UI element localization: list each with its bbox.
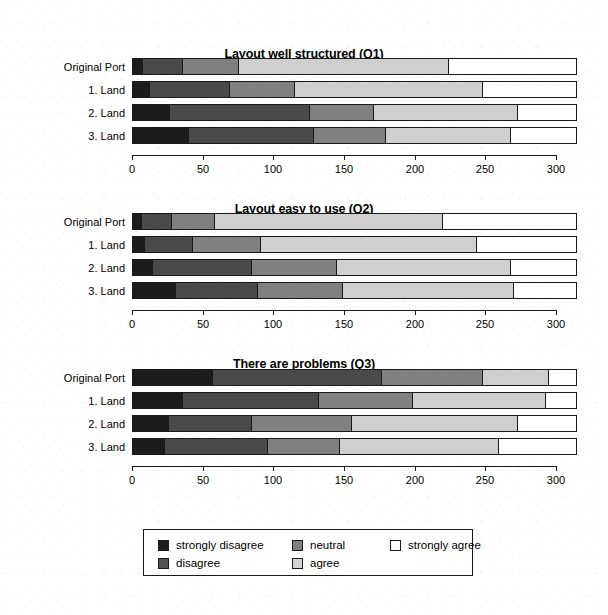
bar-segment-sd [132,237,145,252]
legend-swatch-icon [158,558,169,569]
bar-segment-sd [132,439,165,454]
bar-segment-d [169,416,252,431]
x-axis-tick-label: 300 [536,163,576,175]
x-axis-tick-label: 150 [324,318,364,330]
x-axis-tick-label: 100 [253,474,293,486]
bar-segment-sa [443,214,577,229]
bar-segment-a [215,214,443,229]
bar-segment-sa [518,105,577,120]
bar-segment-sd [132,59,143,74]
x-axis-tick-label: 0 [112,318,152,330]
bar-segment-d [183,393,319,408]
bar-segment-a [343,283,514,298]
bar-segment-d [142,214,172,229]
category-label: Original Port [33,61,125,73]
x-axis-tick [273,310,274,315]
x-axis-tick-label: 150 [324,474,364,486]
bar-segment-n [314,128,386,143]
bar-segment-d [145,237,193,252]
legend-label: disagree [176,557,220,569]
bar-segment-d [176,283,258,298]
x-axis-tick [556,310,557,315]
category-label: 3. Land [33,441,125,453]
x-axis-tick-label: 250 [465,318,505,330]
bar-segment-d [150,82,229,97]
bar-segment-sd [132,393,183,408]
stacked-bar [132,282,577,299]
x-axis-tick [556,155,557,160]
stacked-bar [132,58,577,75]
x-axis-tick [203,155,204,160]
x-axis-tick-label: 0 [112,474,152,486]
bar-segment-n [183,59,240,74]
x-axis-tick [415,466,416,471]
legend-label: agree [310,557,339,569]
x-axis-tick-label: 200 [395,163,435,175]
bar-segment-sa [546,393,577,408]
stacked-bar [132,213,577,230]
category-label: 2. Land [33,262,125,274]
x-axis-tick [273,466,274,471]
stacked-bar [132,259,577,276]
stacked-bar [132,369,577,386]
x-axis-tick-label: 100 [253,318,293,330]
bar-segment-d [189,128,315,143]
x-axis-tick-label: 300 [536,474,576,486]
legend-item-d: disagree [158,557,220,569]
bar-segment-a [413,393,546,408]
legend-item-n: neutral [292,539,345,551]
x-axis-tick-label: 100 [253,163,293,175]
bar-segment-sa [483,82,578,97]
category-label: Original Port [33,216,125,228]
stacked-bar [132,81,577,98]
category-label: Original Port [33,372,125,384]
category-label: 3. Land [33,285,125,297]
legend-swatch-icon [292,558,303,569]
bar-segment-a [386,128,510,143]
bar-segment-sa [518,416,577,431]
bar-segment-sd [132,260,153,275]
bar-segment-n [172,214,216,229]
legend-label: strongly disagree [176,539,264,551]
bar-segment-sd [132,283,176,298]
bar-segment-n [252,260,337,275]
stacked-bar [132,236,577,253]
x-axis-tick-label: 50 [183,163,223,175]
category-label: 1. Land [33,84,125,96]
x-axis-tick [203,466,204,471]
bar-segment-n [268,439,340,454]
x-axis-tick-label: 200 [395,474,435,486]
bar-segment-d [170,105,310,120]
bar-segment-a [239,59,448,74]
bar-segment-a [337,260,511,275]
category-label: 3. Land [33,130,125,142]
bar-segment-a [340,439,500,454]
bar-segment-n [193,237,261,252]
bar-segment-sd [132,214,142,229]
bar-segment-a [483,370,549,385]
legend-item-sd: strongly disagree [158,539,264,551]
x-axis-tick [132,310,133,315]
stacked-bar [132,127,577,144]
bar-segment-sa [477,237,577,252]
chart-legend: strongly disagreedisagreeneutralagreestr… [143,529,473,576]
bar-segment-a [374,105,518,120]
x-axis-tick-label: 250 [465,474,505,486]
x-axis-tick-label: 0 [112,163,152,175]
bar-segment-sa [449,59,578,74]
bar-segment-n [310,105,374,120]
bar-segment-sd [132,82,150,97]
x-axis-tick [132,155,133,160]
bar-segment-sa [549,370,577,385]
stacked-bar [132,438,577,455]
bar-segment-sa [499,439,577,454]
bar-segment-sd [132,128,189,143]
category-label: 2. Land [33,107,125,119]
legend-label: strongly agree [408,539,481,551]
figure-page: Layout well structured (Q1)Original Port… [0,0,608,615]
x-axis-tick [485,155,486,160]
bar-segment-n [230,82,295,97]
x-axis-tick [556,466,557,471]
legend-swatch-icon [292,540,303,551]
x-axis-tick-label: 50 [183,318,223,330]
